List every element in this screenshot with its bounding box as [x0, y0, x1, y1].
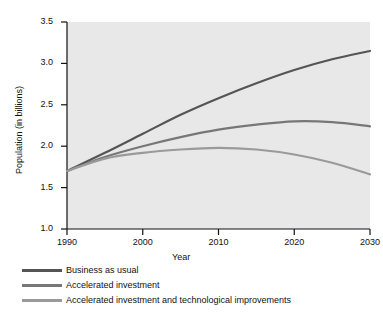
legend-label: Business as usual — [66, 265, 139, 276]
y-tick-label: 3.5 — [29, 16, 53, 26]
y-axis-label: Population (in billions) — [14, 65, 24, 195]
legend-item: Accelerated investment — [22, 278, 378, 293]
x-tick-label: 2030 — [352, 237, 383, 247]
y-tick-label: 2.0 — [29, 140, 53, 150]
x-tick-label: 2000 — [125, 237, 161, 247]
legend-label: Accelerated investment — [66, 280, 160, 291]
y-tick-label: 3.0 — [29, 57, 53, 67]
x-axis-label: Year — [172, 252, 190, 262]
legend-swatch-line-icon — [22, 284, 62, 287]
x-tick-label: 2020 — [276, 237, 312, 247]
chart-legend: Business as usualAccelerated investmentA… — [22, 263, 378, 308]
legend-swatch-line-icon — [22, 299, 62, 302]
legend-label: Accelerated investment and technological… — [66, 295, 291, 306]
y-tick-label: 1.5 — [29, 182, 53, 192]
chart-figure: Population (in billions) Year 1.01.52.02… — [0, 0, 383, 315]
legend-item: Business as usual — [22, 263, 378, 278]
plot-background — [67, 22, 370, 229]
legend-item: Accelerated investment and technological… — [22, 293, 378, 308]
x-tick-label: 1990 — [49, 237, 85, 247]
legend-swatch-line-icon — [22, 269, 62, 272]
x-tick-label: 2010 — [201, 237, 237, 247]
y-tick-label: 2.5 — [29, 99, 53, 109]
y-tick-label: 1.0 — [29, 223, 53, 233]
